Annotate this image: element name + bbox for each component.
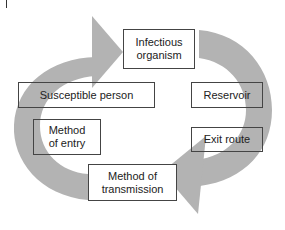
node-reservoir: Reservoir bbox=[191, 82, 263, 108]
node-susceptible-person: Susceptible person bbox=[18, 82, 155, 108]
node-exit-route: Exit route bbox=[191, 127, 263, 152]
node-label: Reservoir bbox=[203, 89, 250, 102]
node-method-of-entry: Method of entry bbox=[33, 119, 101, 155]
chain-of-infection-diagram: Infectious organism Susceptible person R… bbox=[0, 0, 285, 230]
left-arrowhead-icon bbox=[92, 16, 123, 88]
node-label: Method of entry bbox=[49, 124, 86, 150]
right-cycle-arrow-icon bbox=[196, 30, 272, 186]
node-label: Method of transmission bbox=[102, 170, 164, 196]
node-label: Susceptible person bbox=[40, 89, 134, 102]
node-method-of-transmission: Method of transmission bbox=[88, 164, 177, 201]
node-infectious-organism: Infectious organism bbox=[123, 29, 195, 69]
node-label: Exit route bbox=[204, 133, 250, 146]
node-label: Infectious organism bbox=[135, 36, 182, 62]
